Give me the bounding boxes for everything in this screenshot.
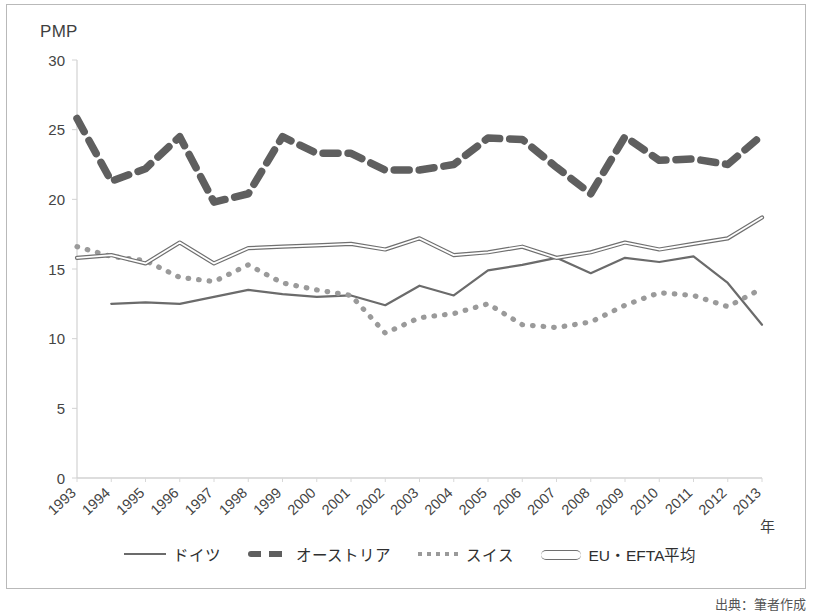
- legend-swatch-double-line-icon: [540, 547, 582, 561]
- legend-label-switzerland: スイス: [466, 543, 514, 565]
- chart-legend: ドイツ オーストリア スイス EU・EFTA平均: [0, 543, 820, 565]
- series-line-3: [77, 217, 762, 263]
- x-axis-tick-label: 2003: [387, 484, 422, 518]
- y-axis-tick-label: 10: [48, 330, 65, 347]
- x-axis-tick-label: 2002: [353, 484, 388, 518]
- series-line-1: [77, 119, 762, 203]
- x-axis-tick-label: 2012: [695, 484, 730, 518]
- x-axis-tick-label: 2004: [421, 484, 456, 518]
- y-axis-tick-label: 5: [57, 400, 65, 417]
- x-axis-tick-label: 1997: [182, 484, 217, 518]
- legend-swatch-solid-line-icon: [124, 547, 166, 561]
- y-axis-tick-label: 15: [48, 261, 65, 278]
- x-axis-tick-label: 1995: [113, 484, 148, 518]
- legend-label-eu-efta-average: EU・EFTA平均: [589, 543, 697, 565]
- x-axis-tick-label: 2000: [284, 484, 319, 518]
- y-axis-tick-label: 25: [48, 121, 65, 138]
- x-axis-tick-label: 2011: [662, 484, 696, 517]
- legend-item-austria[interactable]: オーストリア: [247, 543, 391, 565]
- x-axis-tick-label: 2006: [490, 484, 525, 518]
- legend-item-germany[interactable]: ドイツ: [124, 543, 221, 565]
- plot-area: 0510152025301993199419951996199719981999…: [0, 0, 820, 613]
- y-axis-tick-label: 0: [57, 470, 65, 487]
- x-axis-tick-label: 2013: [730, 484, 765, 518]
- x-axis-tick-label: 1994: [79, 484, 114, 518]
- x-axis-tick-label: 2001: [319, 484, 354, 518]
- x-axis-tick-label: 2007: [524, 484, 559, 518]
- source-note: 出典：筆者作成: [715, 594, 806, 611]
- x-axis-tick-label: 1998: [216, 484, 251, 518]
- y-axis-tick-label: 30: [48, 52, 65, 69]
- chart-figure: PMP 年 0510152025301993199419951996199719…: [0, 0, 820, 613]
- legend-label-germany: ドイツ: [173, 543, 221, 565]
- x-axis-tick-label: 2010: [627, 484, 662, 518]
- legend-swatch-dotted-line-icon: [417, 547, 459, 561]
- x-axis-tick-label: 1996: [147, 484, 182, 518]
- x-axis-tick-label: 1999: [250, 484, 285, 518]
- series-line-2: [77, 247, 762, 333]
- legend-item-switzerland[interactable]: スイス: [417, 543, 514, 565]
- x-axis-tick-label: 2008: [558, 484, 593, 518]
- legend-swatch-dashed-line-icon: [247, 547, 289, 561]
- x-axis-tick-label: 1993: [45, 484, 80, 518]
- x-axis-tick-label: 2009: [593, 484, 628, 518]
- y-axis-tick-label: 20: [48, 191, 65, 208]
- legend-item-eu-efta-average[interactable]: EU・EFTA平均: [540, 543, 697, 565]
- x-axis-tick-label: 2005: [456, 484, 491, 518]
- legend-label-austria: オーストリア: [296, 543, 391, 565]
